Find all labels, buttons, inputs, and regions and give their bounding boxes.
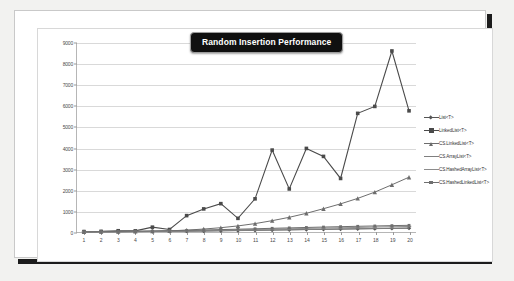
x-axis-tick-mark [238, 232, 239, 235]
x-axis-tick-label: 10 [236, 237, 242, 243]
data-point [322, 226, 325, 229]
x-axis-tick-label: 13 [287, 237, 293, 243]
x-axis-tick-mark [221, 232, 222, 235]
data-point [305, 226, 308, 229]
data-point [253, 197, 257, 201]
legend-marker-icon [424, 113, 439, 122]
y-axis-tick-label: 8000 [63, 61, 73, 67]
x-axis-tick-mark [307, 232, 308, 235]
data-point [236, 217, 240, 221]
data-point [305, 147, 309, 151]
legend-item[interactable]: CS.HashedLinkedList<T> [424, 176, 514, 189]
data-point [254, 227, 257, 230]
legend-label: CS.HashedLinkedList<T> [439, 180, 489, 185]
chart-container: 0100020003000400050006000700080009000 12… [37, 28, 493, 262]
data-point [237, 228, 240, 231]
x-axis-tick-mark [341, 232, 342, 235]
y-axis-tick-label: 6000 [63, 103, 73, 109]
x-axis-tick-label: 16 [339, 237, 345, 243]
data-point [202, 207, 206, 211]
document-page: 0100020003000400050006000700080009000 12… [14, 10, 486, 258]
legend-label: List<T> [439, 115, 454, 120]
data-point [202, 229, 205, 232]
data-point [390, 49, 394, 53]
x-axis-tick-label: 7 [186, 237, 189, 243]
y-axis-tick-label: 9000 [63, 40, 73, 46]
legend-marker-icon [424, 178, 439, 187]
x-axis-tick-label: 2 [100, 237, 103, 243]
data-point [270, 148, 274, 152]
data-point [83, 230, 86, 233]
data-point [134, 230, 137, 233]
legend-marker-icon [424, 152, 439, 161]
y-axis-tick-label: 7000 [63, 82, 73, 88]
data-point [407, 109, 411, 113]
x-axis-tick-mark [324, 232, 325, 235]
x-axis-tick-label: 15 [321, 237, 327, 243]
data-point [356, 225, 359, 228]
data-point [185, 214, 189, 218]
plot-wrapper: 0100020003000400050006000700080009000 12… [76, 43, 416, 233]
x-axis-tick-label: 14 [304, 237, 310, 243]
x-axis-tick-label: 17 [356, 237, 362, 243]
y-axis-tick-label: 1000 [63, 209, 73, 215]
y-axis-tick-label: 0 [70, 230, 73, 236]
data-point [356, 112, 360, 116]
series-line [84, 51, 409, 232]
legend-marker-icon [424, 139, 439, 148]
legend-item[interactable]: CS.ArrayList<T> [424, 150, 514, 163]
y-axis-tick-label: 2000 [63, 188, 73, 194]
x-axis-tick-mark [376, 232, 377, 235]
x-axis-tick-label: 9 [220, 237, 223, 243]
x-axis-tick-mark [410, 232, 411, 235]
chart-title: Random Insertion Performance [190, 32, 343, 53]
x-axis-tick-label: 6 [168, 237, 171, 243]
x-axis-tick-mark [393, 232, 394, 235]
legend-label: CS.ArrayList<T> [439, 154, 471, 159]
series-1 [82, 49, 411, 233]
data-point [373, 225, 376, 228]
data-point [373, 105, 377, 109]
data-point [407, 175, 411, 179]
series-line [84, 177, 409, 232]
legend-item[interactable]: List<T> [424, 111, 514, 124]
legend-item[interactable]: LinkedList<T> [424, 124, 514, 137]
legend-marker-icon [424, 165, 439, 174]
x-axis-tick-mark [273, 232, 274, 235]
plot-area: 0100020003000400050006000700080009000 12… [76, 43, 416, 233]
x-axis-tick-label: 11 [253, 237, 258, 243]
data-point [373, 190, 377, 194]
data-point [287, 187, 291, 191]
data-point [339, 177, 343, 181]
data-point [117, 230, 120, 233]
x-axis-tick-label: 19 [390, 237, 396, 243]
legend-label: CS.HashedArrayList<T> [439, 167, 487, 172]
chart-legend: List<T>LinkedList<T>CS.LinkedList<T>CS.A… [424, 111, 514, 189]
y-axis-tick-mark [74, 233, 77, 234]
x-axis-tick-mark [359, 232, 360, 235]
scanned-page-background: 0100020003000400050006000700080009000 12… [0, 0, 514, 281]
x-axis-tick-mark [256, 232, 257, 235]
data-point [168, 229, 171, 232]
x-axis-tick-label: 20 [407, 237, 413, 243]
x-axis-tick-label: 5 [151, 237, 154, 243]
data-point [408, 224, 411, 227]
x-axis-tick-label: 1 [83, 237, 86, 243]
x-axis-tick-label: 12 [270, 237, 276, 243]
data-point [151, 230, 154, 233]
legend-item[interactable]: CS.HashedArrayList<T> [424, 163, 514, 176]
x-axis-tick-label: 8 [203, 237, 206, 243]
data-point [219, 202, 223, 206]
legend-item[interactable]: CS.LinkedList<T> [424, 137, 514, 150]
x-axis-tick-label: 3 [117, 237, 120, 243]
data-point [100, 230, 103, 233]
y-axis-tick-label: 3000 [63, 167, 73, 173]
y-axis-tick-label: 4000 [63, 146, 73, 152]
data-point [151, 225, 155, 229]
data-point [339, 225, 342, 228]
data-point [271, 227, 274, 230]
x-axis-tick-label: 18 [373, 237, 379, 243]
data-point [219, 228, 222, 231]
x-axis-tick-label: 4 [134, 237, 137, 243]
legend-label: LinkedList<T> [439, 128, 467, 133]
